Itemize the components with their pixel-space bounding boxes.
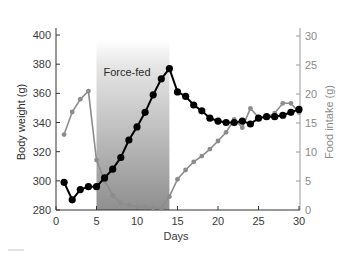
force-fed-label: Force-fed	[103, 66, 150, 78]
svg-text:340: 340	[33, 117, 51, 129]
svg-text:30: 30	[293, 215, 305, 227]
svg-text:380: 380	[33, 58, 51, 70]
svg-text:20: 20	[305, 88, 317, 100]
svg-text:5: 5	[305, 175, 311, 187]
svg-text:25: 25	[252, 215, 264, 227]
svg-text:0: 0	[305, 204, 311, 216]
svg-text:5: 5	[93, 215, 99, 227]
svg-text:300: 300	[33, 175, 51, 187]
svg-text:30: 30	[305, 30, 317, 42]
svg-text:360: 360	[33, 87, 51, 99]
svg-text:25: 25	[305, 59, 317, 71]
svg-text:15: 15	[171, 215, 183, 227]
svg-text:0: 0	[53, 215, 59, 227]
svg-text:10: 10	[305, 146, 317, 158]
svg-text:400: 400	[33, 29, 51, 41]
svg-text:20: 20	[212, 215, 224, 227]
chart: 2803003203403603804000510152025300510152…	[0, 0, 353, 253]
svg-text:320: 320	[33, 146, 51, 158]
svg-text:15: 15	[305, 117, 317, 129]
y-axis-label: Body weight (g)	[15, 84, 27, 160]
y2-axis-label: Food intake (g)	[323, 85, 335, 159]
x-axis-label: Days	[163, 230, 189, 242]
svg-text:280: 280	[33, 204, 51, 216]
svg-text:10: 10	[131, 215, 143, 227]
